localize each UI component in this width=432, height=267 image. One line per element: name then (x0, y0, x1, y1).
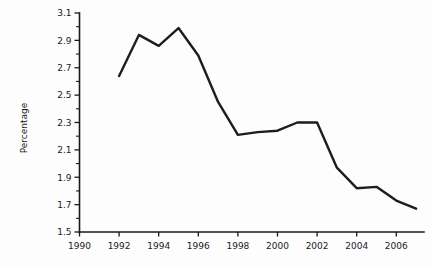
x-tick-label: 1992 (108, 241, 131, 251)
y-tick-label: 2.1 (57, 145, 71, 155)
data-series-line-0 (119, 28, 416, 209)
x-tick-label: 2000 (266, 241, 289, 251)
y-tick-label: 1.5 (57, 227, 71, 237)
y-axis-title-group: Percentage (19, 102, 29, 153)
x-tick-label: 2006 (385, 241, 408, 251)
chart-container: Percentage 1.51.71.92.12.32.52.72.93.1 1… (0, 0, 432, 267)
x-axis-ticks: 199019921994199619982000200220042006 (68, 232, 408, 251)
y-tick-label: 2.3 (57, 118, 71, 128)
x-tick-label: 1990 (68, 241, 91, 251)
y-tick-label: 3.1 (57, 8, 71, 18)
y-axis-title: Percentage (19, 102, 29, 153)
x-tick-label: 2004 (345, 241, 368, 251)
line-chart: Percentage 1.51.71.92.12.32.52.72.93.1 1… (0, 0, 432, 267)
x-tick-label: 1994 (147, 241, 170, 251)
y-axis-ticks: 1.51.71.92.12.32.52.72.93.1 (57, 8, 79, 237)
y-tick-label: 2.9 (57, 36, 72, 46)
y-tick-label: 2.7 (57, 63, 71, 73)
x-tick-label: 1996 (187, 241, 210, 251)
y-tick-label: 1.9 (57, 173, 72, 183)
x-tick-label: 1998 (226, 241, 249, 251)
data-series-group (119, 28, 416, 209)
y-tick-label: 2.5 (57, 90, 71, 100)
x-tick-label: 2002 (306, 241, 329, 251)
y-tick-label: 1.7 (57, 200, 71, 210)
